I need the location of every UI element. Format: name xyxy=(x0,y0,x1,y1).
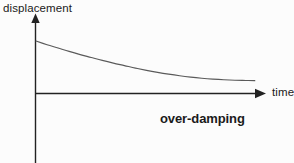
x-axis-label: time xyxy=(272,86,294,98)
over-damping-plot xyxy=(0,0,294,163)
over-damping-annotation: over-damping xyxy=(160,111,245,126)
y-axis-label: displacement xyxy=(3,2,72,14)
x-axis-arrowhead-icon xyxy=(255,89,266,99)
over-damping-curve xyxy=(36,41,255,81)
y-axis-arrowhead-icon xyxy=(31,14,39,24)
